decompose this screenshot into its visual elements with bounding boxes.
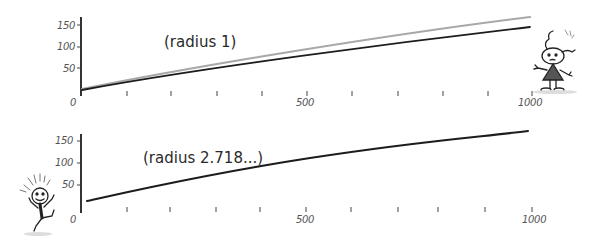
bottom-x-label-1000: 1000 xyxy=(522,214,546,225)
top-y-label-50: 50 xyxy=(63,63,75,74)
top-y-label-100: 100 xyxy=(57,41,75,52)
top-y-label-150: 150 xyxy=(57,20,75,31)
girl-cartoon-icon xyxy=(533,30,577,94)
bottom-annotation: (radius 2.718...) xyxy=(143,149,263,167)
bottom-y-label-150: 150 xyxy=(55,135,73,146)
bottom-x-label-0: 0 xyxy=(70,214,76,225)
top-series-black xyxy=(82,27,530,90)
top-x-label-500: 500 xyxy=(296,97,314,108)
top-annotation: (radius 1) xyxy=(164,33,236,51)
chart-canvas: 150 100 50 0 500 1000 (radius 1) xyxy=(0,0,597,245)
bottom-y-label-50: 50 xyxy=(62,179,74,190)
bottom-y-label-100: 100 xyxy=(55,157,73,168)
top-x-label-0: 0 xyxy=(70,97,76,108)
bottom-chart: 150 100 50 0 500 1000 (radius 2.718...) xyxy=(20,131,555,236)
boy-cartoon-icon xyxy=(20,174,54,236)
top-chart: 150 100 50 0 500 1000 (radius 1) xyxy=(57,17,590,108)
top-x-label-1000: 1000 xyxy=(518,97,542,108)
bottom-x-label-500: 500 xyxy=(296,214,314,225)
